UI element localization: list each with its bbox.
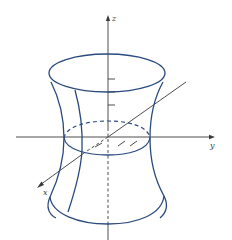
z-axis — [106, 15, 110, 240]
waist-ellipse-back — [64, 121, 150, 138]
hyperboloid-diagram: z y x — [0, 0, 232, 240]
y-axis-label: y — [209, 141, 215, 150]
y-axis — [16, 135, 215, 139]
waist-ellipse-front — [64, 138, 150, 155]
z-axis-label: z — [111, 14, 117, 23]
bottom-rim-curve — [50, 196, 164, 224]
top-rim-ellipse — [49, 54, 165, 92]
x-axis-label: x — [43, 188, 48, 197]
